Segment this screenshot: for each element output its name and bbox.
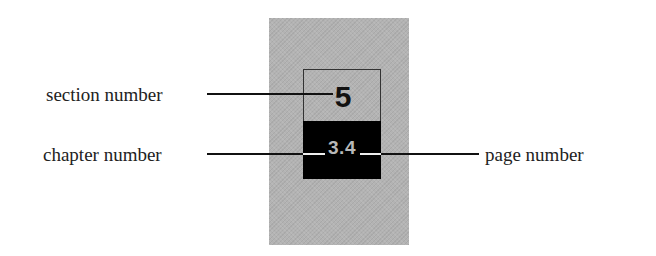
page-leader-line-inner <box>360 153 381 155</box>
section-leader-line <box>207 93 333 95</box>
chapter-number-label: chapter number <box>43 144 162 166</box>
page-number-label: page number <box>485 144 584 166</box>
tab-section-area: 5 <box>303 69 381 121</box>
tab-chapter-page-area: 3.4 <box>303 121 381 179</box>
page-leader-line <box>381 153 479 155</box>
thumb-tab: 5 3.4 <box>303 69 381 179</box>
section-number-label: section number <box>46 84 163 106</box>
chapter-leader-line-inner <box>303 153 325 155</box>
section-number-value: 5 <box>304 80 382 114</box>
chapter-page-number-value: 3.4 <box>303 137 381 159</box>
chapter-leader-line <box>207 153 303 155</box>
